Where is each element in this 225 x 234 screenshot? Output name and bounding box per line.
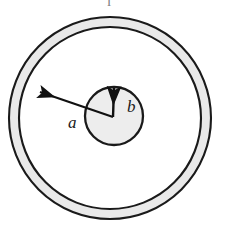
concentric-circles-diagram: a b l: [0, 0, 225, 234]
label-inner-radius-b: b: [127, 97, 136, 116]
clipped-top-glyph: l: [107, 0, 111, 9]
figure-container: a b l: [0, 0, 225, 234]
radius-arrow-b: [113, 88, 114, 117]
label-outer-radius-a: a: [68, 113, 77, 132]
